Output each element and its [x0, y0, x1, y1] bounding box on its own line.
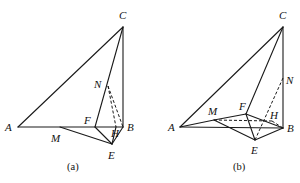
point-label-F: F — [238, 100, 246, 112]
point-label-B: B — [127, 121, 134, 133]
figure-b: ABCFMHEN(b) — [167, 9, 294, 173]
dashed-edge-NB — [108, 86, 123, 127]
point-label-M: M — [50, 132, 61, 144]
dashed-edge-EN — [255, 78, 283, 140]
point-label-M: M — [207, 105, 218, 117]
edge-AC — [18, 27, 123, 127]
point-label-N: N — [93, 78, 102, 90]
point-label-F: F — [83, 114, 91, 126]
point-label-H: H — [110, 127, 120, 139]
point-label-C: C — [279, 9, 287, 21]
point-label-A: A — [167, 121, 175, 133]
edge-MF — [214, 114, 246, 120]
edge-CF — [95, 27, 123, 127]
point-label-A: A — [4, 121, 12, 133]
point-label-N: N — [285, 74, 294, 86]
figure-caption: (a) — [67, 161, 79, 173]
point-label-B: B — [287, 122, 294, 134]
figure-caption: (b) — [233, 161, 246, 173]
dashed-edge-NH — [108, 86, 116, 127]
point-label-E: E — [250, 144, 258, 156]
edge-AB — [180, 127, 283, 128]
geometry-diagram: ABCFNHEM(a) ABCFMHEN(b) — [0, 0, 300, 183]
point-label-E: E — [107, 149, 115, 161]
point-label-H: H — [269, 109, 279, 121]
point-label-C: C — [119, 9, 127, 21]
figure-a: ABCFNHEM(a) — [4, 9, 134, 173]
edge-AM — [180, 120, 214, 127]
edge-CF — [246, 27, 283, 114]
